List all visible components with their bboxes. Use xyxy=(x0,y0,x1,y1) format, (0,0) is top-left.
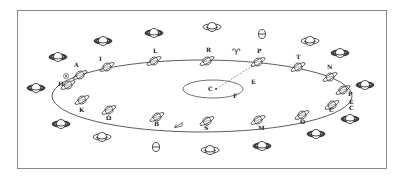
saturn-icon xyxy=(27,84,45,93)
orbit-body-label: O xyxy=(300,118,305,125)
orbit-body-label: T xyxy=(296,53,301,60)
saturn-icon xyxy=(203,23,221,32)
theta-icon xyxy=(153,143,160,152)
saturn-icon xyxy=(145,29,163,38)
orbit-body-label: M xyxy=(258,124,265,131)
dashed-line xyxy=(216,63,257,89)
orbit-body-label: S xyxy=(204,124,208,131)
orbital-diagram: C AHILRPTNPCOMSBΩK ♈ΕFEC xyxy=(0,0,404,179)
orbit-body-label: Ω xyxy=(106,114,112,121)
orbit-bodies: AHILRPTNPCOMSBΩK xyxy=(58,46,353,131)
saturn-icon xyxy=(52,120,70,129)
small-planet-icon xyxy=(64,74,69,79)
orbit-body-label: C xyxy=(329,106,334,113)
saturn-icon xyxy=(301,37,319,46)
saturn-icon xyxy=(201,146,219,155)
saturn-icon xyxy=(307,130,325,139)
orbit-body-label: N xyxy=(327,63,333,70)
saturn-icon xyxy=(356,81,374,90)
orbit-symbol: ♈ xyxy=(232,47,241,57)
orbit-body-label: B xyxy=(154,120,159,127)
saturn-icon xyxy=(341,115,359,124)
saturn-icon xyxy=(49,53,67,62)
saturn-icon xyxy=(253,142,271,151)
orbit-body-label: P xyxy=(257,47,262,54)
saturn-icon xyxy=(93,133,111,142)
orbit-body-label: I xyxy=(99,55,102,62)
main-orbit xyxy=(52,60,352,132)
orbit-symbol: C xyxy=(349,104,354,111)
orbit-symbol: F xyxy=(233,92,238,99)
theta-icon xyxy=(259,30,266,39)
inner-ellipse-label: C xyxy=(208,85,213,92)
orbit-body-label: R xyxy=(206,46,212,53)
orbit-body-label: L xyxy=(153,47,158,54)
ringed-planet-icon xyxy=(198,54,216,69)
orbit-body-label: K xyxy=(79,106,85,113)
orbit-symbols: ♈ΕFEC xyxy=(232,47,354,111)
orbit-body-label: H xyxy=(58,80,64,87)
ringed-planet-icon xyxy=(321,70,339,85)
outer-saturns xyxy=(27,23,374,155)
orbit-symbol: Ε xyxy=(251,78,256,85)
orbit-body-label: A xyxy=(73,61,79,68)
saturn-icon xyxy=(94,37,112,46)
comet-icon xyxy=(174,122,184,129)
orbit-body-label: P xyxy=(348,90,353,97)
saturn-icon xyxy=(331,49,349,58)
